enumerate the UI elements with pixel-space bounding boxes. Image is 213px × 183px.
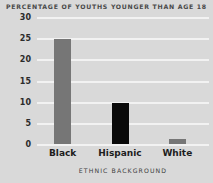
y-axis-tick-label: 0 — [0, 141, 31, 149]
bar — [112, 103, 129, 145]
y-axis-tick-label: 25 — [0, 35, 31, 43]
bar-chart: PERCENTAGE OF YOUTHS YOUNGER THAN AGE 18… — [0, 0, 213, 183]
chart-title: PERCENTAGE OF YOUTHS YOUNGER THAN AGE 18 — [0, 3, 213, 10]
y-axis-tick-label: 20 — [0, 56, 31, 64]
bar — [54, 39, 71, 145]
y-axis-tick-label: 10 — [0, 99, 31, 107]
gridline — [37, 17, 209, 19]
y-axis-tick-label: 5 — [0, 120, 31, 128]
x-axis-title: ETHNIC BACKGROUND — [37, 167, 209, 174]
x-axis-category-label: White — [132, 149, 213, 158]
y-axis-tick-label: 15 — [0, 78, 31, 86]
plot-area — [37, 18, 209, 145]
y-axis-tick-label: 30 — [0, 14, 31, 22]
x-axis-baseline — [37, 144, 209, 146]
